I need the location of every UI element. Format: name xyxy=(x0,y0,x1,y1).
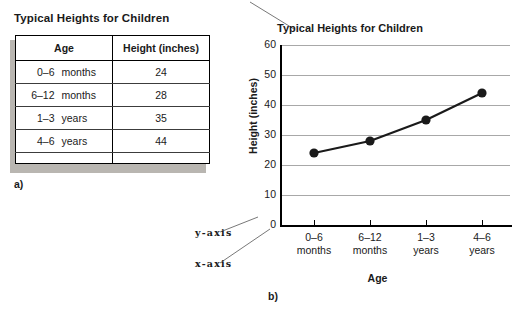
cell-blank-age xyxy=(16,153,113,164)
y-axis-title: Height (inches) xyxy=(247,71,259,161)
callout-x-axis: x-axis xyxy=(195,258,232,269)
x-tick-label: 4–6 years xyxy=(449,231,515,256)
table-row: 6–12months 28 xyxy=(16,84,210,107)
heights-table: Age Height (inches) 0–6months 24 6–12mon… xyxy=(15,35,210,164)
x-tick-label-line2: years xyxy=(449,244,515,257)
cell-age-value: 4–6 xyxy=(25,135,55,147)
cell-age: 0–6months xyxy=(16,61,113,84)
cell-age-value: 1–3 xyxy=(25,112,55,124)
cell-height: 24 xyxy=(113,61,210,84)
panel-b-chart-figure: Typical Heights for Children Height (inc… xyxy=(230,0,525,318)
cell-age: 6–12months xyxy=(16,84,113,107)
table-row: 1–3years 35 xyxy=(16,107,210,130)
table-header-row: Age Height (inches) xyxy=(16,36,210,61)
cell-height: 35 xyxy=(113,107,210,130)
table-row: 4–6years 44 xyxy=(16,130,210,153)
x-axis-title: Age xyxy=(230,272,525,284)
series-marker xyxy=(477,88,486,97)
cell-height: 44 xyxy=(113,130,210,153)
figure-label-a: a) xyxy=(14,178,23,190)
column-header-age: Age xyxy=(16,36,113,61)
cell-age-unit: years xyxy=(55,135,104,147)
series-marker xyxy=(309,148,318,157)
series-marker xyxy=(421,115,430,124)
figure-label-b: b) xyxy=(268,290,278,302)
panel-a-table-figure: Typical Heights for Children Age Height … xyxy=(0,0,230,200)
cell-blank-height xyxy=(113,153,210,164)
table-row: 0–6months 24 xyxy=(16,61,210,84)
x-tick-label-line1: 4–6 xyxy=(449,231,515,244)
table-blank-row xyxy=(16,153,210,164)
table-title: Typical Heights for Children xyxy=(14,12,169,24)
cell-age-value: 0–6 xyxy=(25,66,55,78)
cell-age: 1–3years xyxy=(16,107,113,130)
cell-age-unit: months xyxy=(55,66,104,78)
cell-age-value: 6–12 xyxy=(25,89,55,101)
cell-age: 4–6years xyxy=(16,130,113,153)
y-tick-label: 40 xyxy=(252,98,276,110)
y-tick-label: 30 xyxy=(252,128,276,140)
cell-age-unit: months xyxy=(55,89,104,101)
series-line xyxy=(314,93,482,153)
y-tick-label: 50 xyxy=(252,68,276,80)
cell-height: 28 xyxy=(113,84,210,107)
y-tick-label: 20 xyxy=(252,158,276,170)
y-tick-label: 10 xyxy=(252,188,276,200)
callout-y-axis: y-axis xyxy=(195,227,232,238)
y-tick-label: 60 xyxy=(252,38,276,50)
column-header-height: Height (inches) xyxy=(113,36,210,61)
plot-area: 60 50 40 30 20 10 0 0–6 months 6–12 mont… xyxy=(280,45,510,225)
series-marker xyxy=(365,136,374,145)
chart-title: Typical Heights for Children xyxy=(277,22,423,34)
cell-age-unit: years xyxy=(55,112,104,124)
data-series xyxy=(280,45,510,226)
